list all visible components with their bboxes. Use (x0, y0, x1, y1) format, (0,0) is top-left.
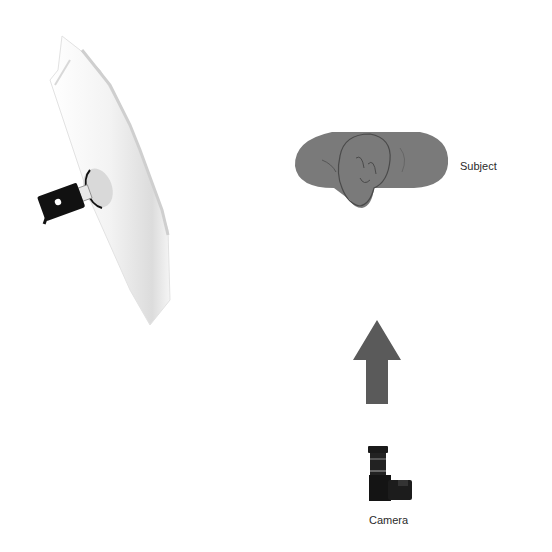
softbox-light-icon (20, 30, 200, 330)
direction-arrow (352, 320, 402, 404)
subject-head-icon (292, 128, 452, 212)
subject (292, 128, 452, 212)
camera (366, 446, 416, 506)
camera-icon (366, 446, 416, 506)
light-source (20, 30, 200, 330)
arrow-up-icon (352, 320, 402, 404)
subject-label: Subject (460, 160, 497, 172)
camera-label: Camera (369, 514, 408, 526)
